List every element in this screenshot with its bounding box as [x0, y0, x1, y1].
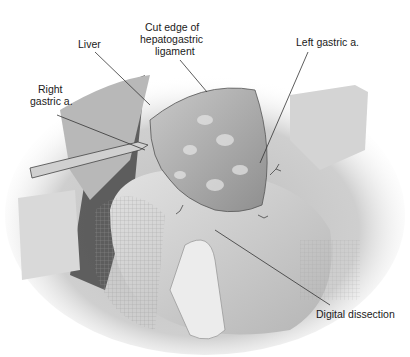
retractor-pad-left [18, 190, 80, 280]
label-cut-edge-3: ligament [155, 45, 195, 57]
label-right-gastric-1: Right [38, 83, 63, 95]
illustration: Liver Cut edge of hepatogastric ligament… [0, 0, 410, 357]
label-liver: Liver [78, 38, 101, 50]
label-cut-edge-2: hepatogastric [140, 33, 203, 45]
anatomy-drawing [0, 0, 410, 357]
label-left-gastric: Left gastric a. [296, 36, 359, 48]
label-digital-dissection: Digital dissection [316, 308, 395, 320]
label-right-gastric-2: gastric a. [30, 95, 73, 107]
label-cut-edge-1: Cut edge of [145, 21, 199, 33]
